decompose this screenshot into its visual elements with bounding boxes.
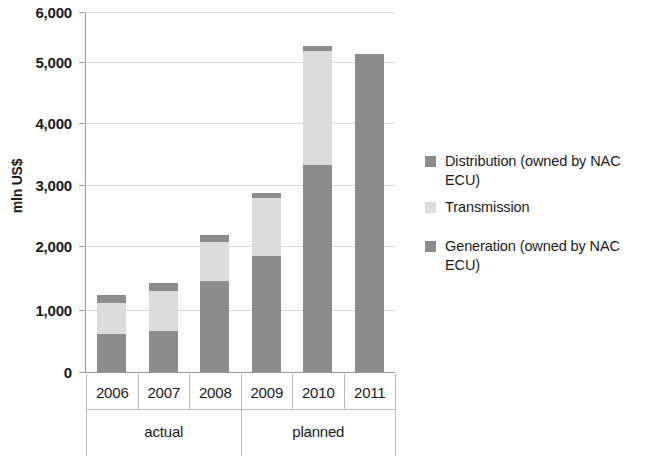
bar-2008 [200,235,229,372]
x-tick-label-2009: 2009 [242,374,294,410]
y-tick-label: 6,000 [0,4,72,21]
x-tick-label-2006: 2006 [87,374,139,410]
bar-segment [149,283,178,291]
bar-segment [97,334,126,372]
bar-segment [252,198,281,256]
x-tick-label-2007: 2007 [139,374,191,410]
bar-segment [97,303,126,334]
legend-swatch-icon [425,241,436,252]
legend-label: Generation (owned by NAC ECU) [445,237,640,275]
gridline [85,12,395,13]
bar-segment [252,193,281,198]
x-tick-label-2011: 2011 [345,374,397,410]
legend-item-generation: Generation (owned by NAC ECU) [425,237,640,275]
stacked-bar-chart: mln US$ 6,000 5,000 4,000 3,000 2,000 1,… [0,0,645,459]
x-group-label-planned: planned [242,410,397,456]
legend-item-transmission: Transmission [425,198,640,217]
bar-2006 [97,295,126,372]
legend-spacer [425,225,640,237]
y-tick-label: 4,000 [0,115,72,132]
bar-segment [97,295,126,303]
gridline [85,62,395,63]
legend-label: Distribution (owned by NAC ECU) [445,152,640,190]
legend-swatch-icon [425,156,436,167]
x-axis-group-row: actual planned [86,410,395,456]
y-tick-label: 5,000 [0,54,72,71]
gridline [85,185,395,186]
bar-segment [355,54,384,372]
legend-item-distribution: Distribution (owned by NAC ECU) [425,152,640,190]
bar-segment [252,256,281,372]
bar-segment [303,51,332,165]
legend-swatch-icon [425,202,436,213]
y-tick-label: 0 [0,364,72,381]
bar-segment [149,331,178,372]
gridline [85,246,395,247]
gridline [85,123,395,124]
y-tick-label: 1,000 [0,302,72,319]
bar-2009 [252,193,281,372]
bar-segment [200,242,229,280]
y-tick-label: 3,000 [0,177,72,194]
legend-label: Transmission [445,198,529,217]
bar-2011 [355,54,384,372]
bar-segment [149,291,178,331]
plot-area [85,12,395,372]
y-tick-label: 2,000 [0,238,72,255]
x-group-label-actual: actual [87,410,242,456]
bar-segment [200,281,229,372]
bar-2007 [149,283,178,372]
gridline [85,310,395,311]
x-axis-line [85,372,395,373]
x-tick-label-2010: 2010 [293,374,345,410]
x-axis-category-row: 2006 2007 2008 2009 2010 2011 [86,374,395,410]
bar-2010 [303,46,332,372]
x-tick-label-2008: 2008 [190,374,242,410]
bar-segment [303,46,332,51]
chart-legend: Distribution (owned by NAC ECU) Transmis… [425,152,640,283]
bar-segment [200,235,229,243]
bar-segment [303,165,332,372]
